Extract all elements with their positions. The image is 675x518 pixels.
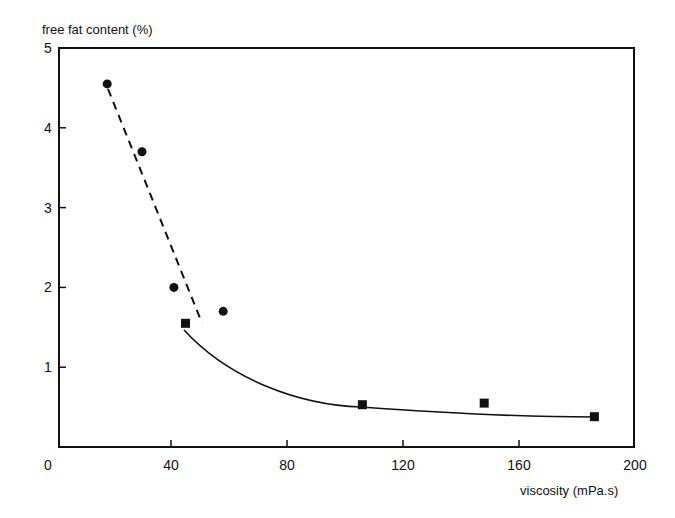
- y-tick-label: 1: [44, 359, 52, 375]
- data-points: [103, 79, 599, 421]
- y-tick-label: 3: [44, 200, 52, 216]
- x-tick-label: 120: [391, 457, 415, 473]
- square-data-point: [480, 399, 489, 408]
- y-tick-label: 4: [44, 120, 52, 136]
- square-data-point: [181, 319, 190, 328]
- solid-fit-curve: [184, 330, 593, 417]
- x-axis-ticks: 04080120160200: [44, 440, 647, 473]
- x-tick-label: 0: [44, 457, 52, 473]
- x-tick-label: 40: [163, 457, 179, 473]
- square-data-point: [358, 400, 367, 409]
- x-tick-label: 80: [279, 457, 295, 473]
- dashed-fit-line: [108, 89, 202, 323]
- circle-data-point: [138, 147, 147, 156]
- x-tick-label: 200: [623, 457, 647, 473]
- y-tick-label: 5: [44, 40, 52, 56]
- circle-data-point: [169, 283, 178, 292]
- square-data-point: [590, 412, 599, 421]
- plot-frame: [59, 48, 634, 447]
- x-tick-label: 160: [507, 457, 531, 473]
- chart-plot: 04080120160200 12345: [0, 0, 675, 518]
- circle-data-point: [219, 307, 228, 316]
- y-axis-ticks: 12345: [44, 40, 66, 375]
- y-tick-label: 2: [44, 279, 52, 295]
- circle-data-point: [103, 79, 112, 88]
